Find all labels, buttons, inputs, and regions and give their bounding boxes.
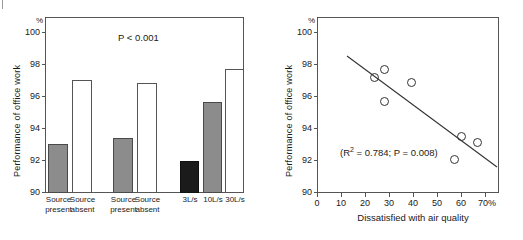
bar-chart-annotation: P < 0.001 xyxy=(118,32,159,43)
bar-chart-y-unit: % xyxy=(36,16,43,25)
bar-category-label-source-absent-2: Source absent xyxy=(131,195,164,214)
bar-chart-ytick-mark-98 xyxy=(42,64,46,65)
figure-container: Performance of office work % 100 98 96 9… xyxy=(0,0,523,240)
scatter-point-3 xyxy=(380,97,389,106)
bar-chart-ytick-100: 100 xyxy=(24,28,40,37)
scatter-point-1 xyxy=(370,73,379,82)
bar-chart-ytick-mark-92 xyxy=(42,160,46,161)
bar-category-label-30ls: 30L/s xyxy=(221,195,249,205)
bar-30ls xyxy=(225,69,244,193)
bar-source-present-2 xyxy=(113,138,133,193)
scatter-point-7 xyxy=(473,138,482,147)
scatter-chart-fit-line xyxy=(262,0,523,240)
bar-chart-ytick-mark-100 xyxy=(42,32,46,33)
bar-chart-ytick-92: 92 xyxy=(24,156,40,165)
bar-category-label-source-absent-1: Source absent xyxy=(66,195,99,214)
bar-chart-ytick-94: 94 xyxy=(24,124,40,133)
bar-chart-ytick-98: 98 xyxy=(24,60,40,69)
scatter-point-4 xyxy=(407,78,416,87)
scatter-annotation-prefix: (R xyxy=(340,147,350,158)
bar-chart-ytick-mark-96 xyxy=(42,96,46,97)
scatter-annotation-suffix: = 0.784; P = 0.008) xyxy=(354,147,438,158)
bar-chart-ytick-mark-94 xyxy=(42,128,46,129)
scatter-point-2 xyxy=(380,65,389,74)
bar-chart-ytick-96: 96 xyxy=(24,92,40,101)
bar-chart-panel: Performance of office work % 100 98 96 9… xyxy=(0,0,262,240)
bar-3ls xyxy=(180,161,199,193)
bar-source-present-1 xyxy=(48,144,68,193)
bar-source-absent-2 xyxy=(137,83,157,193)
bar-chart-ytick-90: 90 xyxy=(24,188,40,197)
bar-chart-ytick-mark-90 xyxy=(42,192,46,193)
scatter-point-5 xyxy=(450,155,459,164)
bar-source-absent-1 xyxy=(72,80,92,193)
page-edge-mark xyxy=(2,0,3,9)
bar-10ls xyxy=(203,102,222,193)
scatter-chart-panel: Performance of office work % 100 98 96 9… xyxy=(262,0,523,240)
scatter-point-6 xyxy=(457,132,466,141)
bar-chart-y-axis-label: Performance of office work xyxy=(12,65,22,177)
scatter-chart-annotation: (R2 = 0.784; P = 0.008) xyxy=(340,146,438,158)
